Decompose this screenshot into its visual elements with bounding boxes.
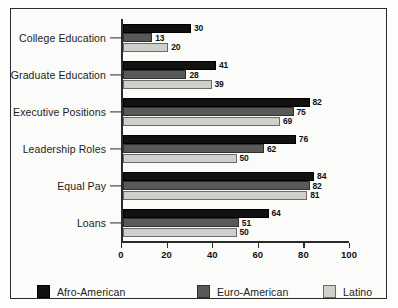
bar-row: 51 bbox=[123, 218, 351, 227]
bar-group: 412839 bbox=[121, 56, 349, 93]
bar-value-label: 20 bbox=[171, 42, 180, 52]
bar[interactable] bbox=[123, 33, 153, 42]
x-axis-tick bbox=[303, 243, 304, 248]
x-axis-line bbox=[121, 241, 349, 243]
bar-row: 30 bbox=[123, 24, 351, 33]
bar-value-label: 69 bbox=[283, 116, 292, 126]
bar-value-label: 82 bbox=[313, 97, 322, 107]
legend-label: Afro-American bbox=[57, 286, 125, 298]
legend-label: Euro-American bbox=[217, 286, 288, 298]
legend-item[interactable]: Latino bbox=[323, 285, 372, 298]
legend-label: Latino bbox=[343, 286, 372, 298]
bar-row: 69 bbox=[123, 117, 351, 126]
x-axis-tick bbox=[121, 243, 122, 248]
bar[interactable] bbox=[123, 154, 237, 163]
bar-value-label: 39 bbox=[215, 79, 224, 89]
category-leader-line bbox=[110, 111, 121, 112]
x-axis-tick-label: 0 bbox=[118, 249, 123, 260]
bar[interactable] bbox=[123, 228, 237, 237]
x-axis-tick-label: 60 bbox=[253, 249, 264, 260]
bar-group: 827569 bbox=[121, 93, 349, 130]
bar-row: 50 bbox=[123, 228, 351, 237]
bar[interactable] bbox=[123, 218, 239, 227]
bar-value-label: 76 bbox=[299, 134, 308, 144]
bar-value-label: 75 bbox=[297, 107, 306, 117]
bar-row: 84 bbox=[123, 172, 351, 181]
category-leader-line bbox=[110, 74, 121, 75]
bar[interactable] bbox=[123, 107, 294, 116]
bar-value-label: 84 bbox=[317, 171, 326, 181]
bar-value-label: 82 bbox=[313, 181, 322, 191]
bar[interactable] bbox=[123, 144, 264, 153]
bar-value-label: 64 bbox=[272, 208, 281, 218]
bar[interactable] bbox=[123, 209, 269, 218]
bar-group: 645150 bbox=[121, 204, 349, 241]
category-label: College Education bbox=[19, 32, 106, 44]
bar[interactable] bbox=[123, 43, 169, 52]
x-axis-tick bbox=[212, 243, 213, 248]
bar-value-label: 62 bbox=[267, 144, 276, 154]
legend-item[interactable]: Afro-American bbox=[37, 285, 125, 298]
bar[interactable] bbox=[123, 117, 280, 126]
category-leader-line bbox=[110, 222, 121, 223]
bar-group: 766250 bbox=[121, 130, 349, 167]
bar-row: 39 bbox=[123, 80, 351, 89]
bar[interactable] bbox=[123, 191, 308, 200]
chart-figure: 301320412839827569766250848281645150 020… bbox=[0, 0, 398, 308]
bar[interactable] bbox=[123, 181, 310, 190]
category-label: Equal Pay bbox=[57, 180, 106, 192]
bar-value-label: 50 bbox=[240, 153, 249, 163]
x-axis-tick bbox=[167, 243, 168, 248]
bar[interactable] bbox=[123, 98, 310, 107]
chart-frame: 301320412839827569766250848281645150 020… bbox=[10, 8, 387, 299]
bar-row: 75 bbox=[123, 107, 351, 116]
bar-value-label: 50 bbox=[240, 227, 249, 237]
bar-value-label: 51 bbox=[242, 218, 251, 228]
bar-row: 62 bbox=[123, 144, 351, 153]
bar-row: 13 bbox=[123, 33, 351, 42]
bar-value-label: 81 bbox=[310, 190, 319, 200]
bar-value-label: 30 bbox=[194, 23, 203, 33]
legend-swatch-afro-american bbox=[37, 285, 50, 298]
bar-group: 848281 bbox=[121, 167, 349, 204]
bar-row: 28 bbox=[123, 70, 351, 79]
bar[interactable] bbox=[123, 70, 187, 79]
bar-row: 20 bbox=[123, 43, 351, 52]
bar[interactable] bbox=[123, 172, 315, 181]
bar-value-label: 41 bbox=[219, 60, 228, 70]
bar-row: 50 bbox=[123, 154, 351, 163]
category-leader-line bbox=[110, 148, 121, 149]
bar-row: 76 bbox=[123, 135, 351, 144]
legend-swatch-latino bbox=[323, 285, 336, 298]
bar[interactable] bbox=[123, 24, 191, 33]
bar-row: 82 bbox=[123, 98, 351, 107]
bar[interactable] bbox=[123, 80, 212, 89]
x-axis-tick-label: 20 bbox=[161, 249, 172, 260]
category-leader-line bbox=[110, 37, 121, 38]
x-axis-tick-label: 80 bbox=[298, 249, 309, 260]
bar-row: 82 bbox=[123, 181, 351, 190]
bar-row: 64 bbox=[123, 209, 351, 218]
x-axis-tick-label: 100 bbox=[341, 249, 357, 260]
category-label: Leadership Roles bbox=[23, 143, 106, 155]
bar-value-label: 28 bbox=[189, 70, 198, 80]
chart-legend: Afro-AmericanEuro-AmericanLatino bbox=[37, 285, 377, 303]
x-axis-tick bbox=[349, 243, 350, 248]
bar-row: 81 bbox=[123, 191, 351, 200]
bar[interactable] bbox=[123, 61, 216, 70]
category-label: Executive Positions bbox=[13, 106, 106, 118]
plot-area: 301320412839827569766250848281645150 bbox=[121, 19, 349, 241]
x-axis-tick-label: 40 bbox=[207, 249, 218, 260]
legend-item[interactable]: Euro-American bbox=[197, 285, 288, 298]
bar-value-label: 13 bbox=[155, 33, 164, 43]
category-leader-line bbox=[110, 185, 121, 186]
category-label: Loans bbox=[77, 217, 106, 229]
bar-row: 41 bbox=[123, 61, 351, 70]
legend-swatch-euro-american bbox=[197, 285, 210, 298]
bar-group: 301320 bbox=[121, 19, 349, 56]
bar[interactable] bbox=[123, 135, 296, 144]
category-label: Graduate Education bbox=[11, 69, 106, 81]
x-axis-tick bbox=[258, 243, 259, 248]
